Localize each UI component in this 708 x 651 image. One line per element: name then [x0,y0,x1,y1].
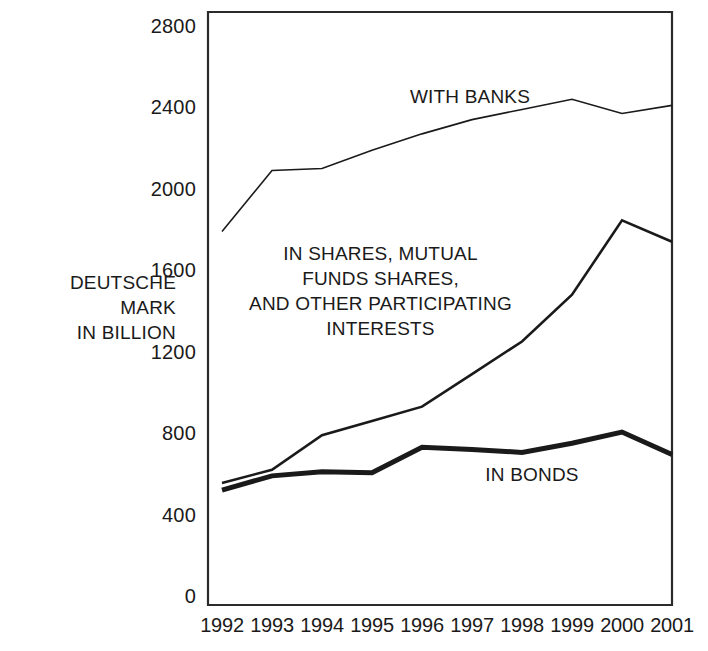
x-tick-label: 1995 [346,614,398,637]
y-tick-label: 2400 [126,96,196,119]
x-tick-label: 1998 [496,614,548,637]
series-line-0 [222,99,672,231]
x-tick-label: 1997 [446,614,498,637]
x-tick-label: 1994 [296,614,348,637]
series-label-with-banks: WITH BANKS [380,84,560,109]
series-label-shares: IN SHARES, MUTUAL FUNDS SHARES, AND OTHE… [218,241,543,341]
series-label-in-bonds: IN BONDS [452,462,612,487]
y-tick-label: 2000 [126,178,196,201]
x-tick-label: 1992 [196,614,248,637]
y-tick-label: 2800 [126,15,196,38]
chart-figure: DEUTSCHE MARK IN BILLION WITH BANKS IN S… [0,0,708,651]
x-tick-label: 2001 [646,614,698,637]
x-tick-label: 2000 [596,614,648,637]
x-tick-label: 1996 [396,614,448,637]
y-tick-label: 400 [126,504,196,527]
y-tick-label: 1600 [126,259,196,282]
y-tick-label: 1200 [126,341,196,364]
x-tick-label: 1999 [546,614,598,637]
y-tick-label: 800 [126,422,196,445]
y-tick-label: 0 [126,585,196,608]
x-tick-label: 1993 [246,614,298,637]
